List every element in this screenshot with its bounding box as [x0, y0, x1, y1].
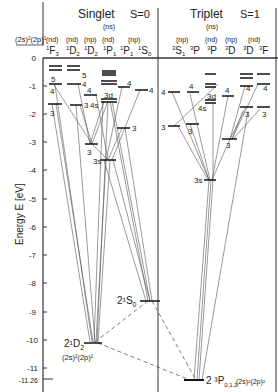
svg-text:(np): (np) [176, 36, 188, 44]
svg-text:3F: 3F [259, 45, 268, 56]
svg-text:4s: 4s [198, 104, 206, 113]
svg-text:-7: -7 [29, 251, 37, 260]
svg-text:1F3: 1F3 [46, 45, 59, 57]
svg-text:3P: 3P [207, 45, 217, 56]
transition-lines [52, 84, 260, 380]
svg-text:(ns): (ns) [103, 23, 115, 31]
svg-text:(nd): (nd) [248, 36, 260, 44]
term-labels: 1F3 1D2 1D2 1P1 1P1 1S0 3S1 3P 3P 3D 3D … [46, 45, 268, 57]
svg-text:(nd): (nd) [102, 36, 114, 44]
svg-text:3S1: 3S1 [172, 45, 186, 57]
svg-text:3s: 3s [93, 157, 101, 166]
svg-text:1S0: 1S0 [138, 45, 152, 57]
svg-text:3: 3 [245, 110, 250, 119]
svg-text:(ns): (ns) [206, 23, 218, 31]
svg-text:-5: -5 [29, 195, 37, 204]
svg-text:3: 3 [262, 110, 267, 119]
svg-text:4s: 4s [90, 101, 98, 110]
svg-text:-9: -9 [29, 308, 37, 317]
svg-text:4: 4 [189, 82, 194, 91]
ground-config-label: (2s)²(2p)¹ [15, 35, 47, 44]
svg-text:4: 4 [149, 86, 154, 95]
svg-text:3D: 3D [243, 45, 254, 56]
svg-text:-11: -11 [27, 364, 39, 373]
svg-text:-8: -8 [29, 279, 37, 288]
svg-text:-4: -4 [29, 166, 37, 175]
svg-text:(nd): (nd) [46, 36, 58, 44]
svg-text:3: 3 [132, 124, 137, 133]
svg-text:4: 4 [161, 88, 166, 97]
svg-text:4: 4 [263, 84, 268, 93]
svg-text:4: 4 [225, 86, 230, 95]
svg-text:4: 4 [246, 84, 251, 93]
svg-text:(np): (np) [128, 36, 140, 44]
level-2-3P-label: 2 ³P0,1,2 [206, 375, 238, 388]
svg-text:-11.26: -11.26 [19, 377, 38, 384]
level-2-1D2-config: (2s)²(2p)² [62, 353, 94, 362]
svg-text:(np): (np) [84, 36, 96, 44]
svg-text:5: 5 [82, 71, 87, 80]
svg-text:3d: 3d [104, 91, 113, 100]
svg-text:(nd): (nd) [66, 36, 78, 44]
svg-text:3: 3 [50, 109, 55, 118]
intercombination-lines [95, 301, 196, 380]
svg-text:-10: -10 [26, 336, 38, 345]
svg-text:0: 0 [32, 54, 37, 63]
triplet-spin: S=1 [240, 8, 260, 20]
grotrian-diagram: Singlet S=0 Triplet S=1 (2s)²(2p)¹ (nd) … [0, 0, 278, 392]
svg-text:1D2: 1D2 [84, 45, 99, 57]
svg-text:1P1: 1P1 [103, 45, 117, 57]
svg-text:3: 3 [87, 148, 92, 157]
svg-text:-6: -6 [29, 223, 37, 232]
svg-text:-2: -2 [29, 110, 37, 119]
svg-text:3: 3 [84, 101, 89, 110]
svg-text:3: 3 [188, 127, 193, 136]
svg-text:-3: -3 [29, 138, 37, 147]
svg-text:3: 3 [161, 123, 166, 132]
svg-text:4: 4 [50, 87, 55, 96]
svg-text:3P: 3P [190, 45, 200, 56]
svg-text:3s: 3s [194, 176, 202, 185]
singlet-spin: S=0 [130, 8, 150, 20]
svg-text:4: 4 [127, 79, 132, 88]
orbital-labels: (nd) (nd) (np) (ns) (nd) (np) (np) (ns) … [46, 23, 260, 44]
level-2-1S0-label: 2¹S0 [117, 295, 137, 308]
level-2-1D2-label: 2¹D2 [64, 338, 84, 351]
svg-text:5: 5 [51, 75, 56, 84]
svg-text:(np): (np) [225, 36, 237, 44]
y-axis-label: Energy E [eV] [14, 183, 25, 245]
level-2-3P-config: (2s)²(2p)² [236, 378, 266, 386]
svg-text:1P1: 1P1 [120, 45, 134, 57]
svg-text:3: 3 [226, 141, 231, 150]
energy-levels [48, 66, 270, 380]
singlet-title: Singlet [78, 7, 115, 21]
frame [16, 2, 278, 392]
svg-text:(nd): (nd) [205, 36, 217, 44]
svg-text:3D: 3D [225, 45, 236, 56]
svg-text:1D2: 1D2 [66, 45, 81, 57]
svg-text:-1: -1 [29, 82, 37, 91]
svg-text:3d: 3d [207, 92, 216, 101]
svg-text:4: 4 [87, 86, 92, 95]
triplet-title: Triplet [190, 7, 224, 21]
